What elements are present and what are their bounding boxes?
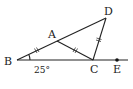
segment-ac [57, 41, 93, 60]
angle-arc-b [29, 55, 30, 61]
label-a: A [47, 28, 57, 41]
geometry-figure: B A C D E 25° [0, 0, 133, 89]
label-d: D [104, 5, 113, 18]
angle-label-b: 25° [34, 65, 50, 75]
label-e: E [113, 63, 121, 76]
label-c: C [90, 63, 98, 76]
label-b: B [4, 55, 12, 68]
segment-bd [17, 18, 106, 60]
point-e-dot [115, 58, 119, 62]
